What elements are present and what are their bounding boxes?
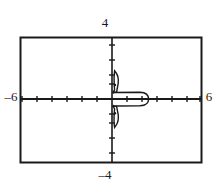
- x-min-label: –6: [5, 90, 18, 103]
- y-min-label: –4: [99, 168, 112, 181]
- graphing-calculator-viewport: 4 –4 –6 6: [0, 0, 218, 196]
- y-max-label: 4: [102, 16, 109, 29]
- x-max-label: 6: [206, 90, 213, 103]
